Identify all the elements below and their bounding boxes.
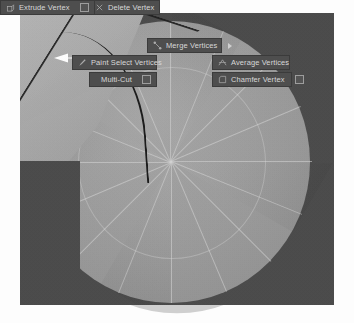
marking-menu-item-label: Average Vertices (231, 59, 289, 67)
option-box-icon[interactable] (295, 75, 304, 84)
merge-icon (153, 41, 162, 50)
marking-menu-item-label: Extrude Vertex (19, 4, 70, 12)
marking-menu-item-extrude-vertex[interactable]: Extrude Vertex (0, 0, 95, 15)
average-icon (218, 58, 227, 67)
marking-menu-item-label: Merge Vertices (166, 42, 217, 50)
chevron-right-icon (228, 43, 232, 49)
option-box-icon[interactable] (80, 3, 89, 12)
marking-menu-item-label: Chamfer Vertex (231, 76, 285, 84)
marking-menu-item-label: Delete Vertex (108, 4, 154, 12)
marking-menu-item-label: Paint Select Vertices (91, 59, 162, 67)
marking-menu-item-multi-cut[interactable]: Multi-Cut (89, 72, 157, 87)
marking-menu-item-average-vertices[interactable]: Average Vertices (212, 55, 290, 70)
extrude-icon (6, 3, 15, 12)
brush-icon (78, 58, 87, 67)
marking-menu-item-delete-vertex[interactable]: Delete Vertex (89, 0, 160, 15)
marking-menu-item-chamfer-vertex[interactable]: Chamfer Vertex (212, 72, 292, 87)
chamfer-icon (218, 75, 227, 84)
marking-menu-item-paint-select-vertices[interactable]: Paint Select Vertices (72, 55, 157, 70)
screenshot-root: Merge Vertices Paint Select Vertices Ave… (0, 0, 354, 323)
marking-menu-item-label: Multi-Cut (101, 76, 132, 84)
marking-menu-item-merge-vertices[interactable]: Merge Vertices (147, 38, 222, 53)
viewport-corner-shadow (20, 161, 80, 305)
option-box-icon[interactable] (142, 75, 151, 84)
delete-icon (95, 3, 104, 12)
